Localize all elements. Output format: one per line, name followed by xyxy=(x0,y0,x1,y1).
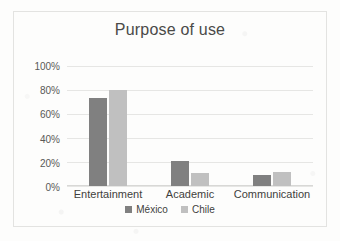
bar-chile-academic xyxy=(191,173,209,186)
y-axis-tick-label: 20% xyxy=(40,157,60,168)
bar-chile-entertainment xyxy=(109,90,127,186)
bar-group xyxy=(149,66,231,186)
x-axis-label-communication: Communication xyxy=(231,188,313,200)
x-axis-label-entertainment: Entertainment xyxy=(67,188,149,200)
bar-group xyxy=(231,66,313,186)
bar-mxico-communication xyxy=(253,175,271,186)
bar-mxico-academic xyxy=(171,161,189,186)
x-axis-labels: EntertainmentAcademicCommunication xyxy=(67,188,313,200)
y-axis-tick-label: 40% xyxy=(40,133,60,144)
legend-item-mxico[interactable]: México xyxy=(125,204,168,215)
y-axis-tick-label: 80% xyxy=(40,85,60,96)
gridline: 0% xyxy=(67,186,313,187)
y-axis-tick-label: 0% xyxy=(46,182,60,193)
chart-title: Purpose of use xyxy=(14,21,326,39)
plot-area: 0%20%40%60%80%100% xyxy=(67,66,313,186)
bar-group xyxy=(67,66,149,186)
bar-chile-communication xyxy=(273,172,291,186)
x-axis-label-academic: Academic xyxy=(149,188,231,200)
legend-label: Chile xyxy=(192,204,215,215)
legend-swatch-icon xyxy=(125,206,132,213)
bar-groups xyxy=(67,66,313,186)
y-axis-tick-label: 100% xyxy=(34,61,60,72)
chart-legend: MéxicoChile xyxy=(14,204,326,215)
legend-label: México xyxy=(136,204,168,215)
chart-frame: Purpose of use 0%20%40%60%80%100% Entert… xyxy=(13,11,327,227)
legend-item-chile[interactable]: Chile xyxy=(181,204,215,215)
y-axis-tick-label: 60% xyxy=(40,109,60,120)
legend-swatch-icon xyxy=(181,206,188,213)
bar-mxico-entertainment xyxy=(89,98,107,186)
